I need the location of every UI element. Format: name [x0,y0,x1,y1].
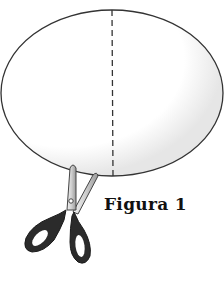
scissors-icon [25,165,98,263]
cutting-diagram: Figura 1 [0,0,224,283]
figure-caption: Figura 1 [104,194,187,214]
diagram-canvas [0,0,224,283]
